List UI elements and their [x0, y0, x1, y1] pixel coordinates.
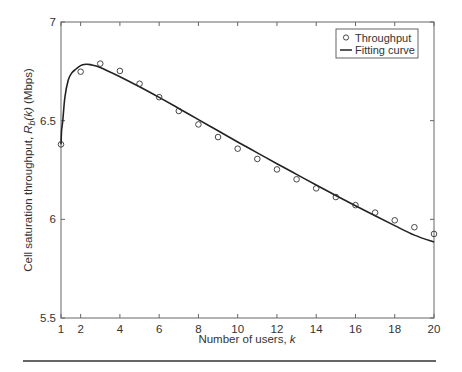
x-axis-title-text: Number of users, [198, 333, 289, 345]
throughput-point [313, 186, 319, 192]
y-tick-label: 6.5 [40, 115, 56, 127]
y-tick-label: 5.5 [40, 312, 56, 324]
throughput-point [412, 224, 418, 230]
x-tick-label: 6 [156, 323, 162, 335]
throughput-series [58, 61, 437, 237]
throughput-point [137, 81, 143, 87]
x-axis-title-variable: k [290, 333, 297, 345]
legend-label-fitting-curve: Fitting curve [355, 44, 415, 56]
throughput-point [392, 218, 398, 224]
x-tick-label: 2 [77, 323, 83, 335]
y-axis-title-arg: (k) [22, 107, 34, 121]
x-tick-label: 18 [388, 323, 401, 335]
x-tick-label: 16 [349, 323, 362, 335]
y-axis-title-symbol: R [22, 125, 34, 133]
legend-label-throughput: Throughput [355, 32, 411, 44]
y-axis-title: Cell saturation throughput, Rb(k) (Mbps) [22, 68, 37, 272]
throughput-point [215, 134, 221, 140]
x-axis-title: Number of users, k [198, 333, 296, 345]
x-tick-label: 20 [428, 323, 441, 335]
legend: Throughput Fitting curve [336, 29, 418, 58]
tick-labels: 124681012141618205.566.57 [40, 16, 440, 335]
x-tick-label: 1 [58, 323, 64, 335]
throughput-point [294, 176, 300, 182]
fitting-curve-series [61, 64, 434, 242]
throughput-point [117, 68, 123, 74]
throughput-point [196, 122, 202, 128]
y-axis-title-unit: (Mbps) [22, 68, 34, 107]
throughput-point [78, 69, 84, 75]
plot-frame [61, 22, 434, 318]
throughput-point [97, 61, 103, 67]
fitting-curve-line [61, 64, 434, 242]
x-tick-label: 4 [117, 323, 124, 335]
y-axis-title-text: Cell saturation throughput, [22, 134, 34, 272]
axes [61, 22, 434, 318]
x-tick-label: 14 [310, 323, 323, 335]
ticks [61, 22, 434, 318]
throughput-point [235, 146, 241, 152]
throughput-point [274, 167, 280, 173]
chart: 124681012141618205.566.57 Number of user… [0, 0, 462, 372]
throughput-point [255, 156, 261, 162]
throughput-point [372, 210, 378, 216]
y-tick-label: 7 [50, 16, 56, 28]
y-tick-label: 6 [50, 213, 56, 225]
